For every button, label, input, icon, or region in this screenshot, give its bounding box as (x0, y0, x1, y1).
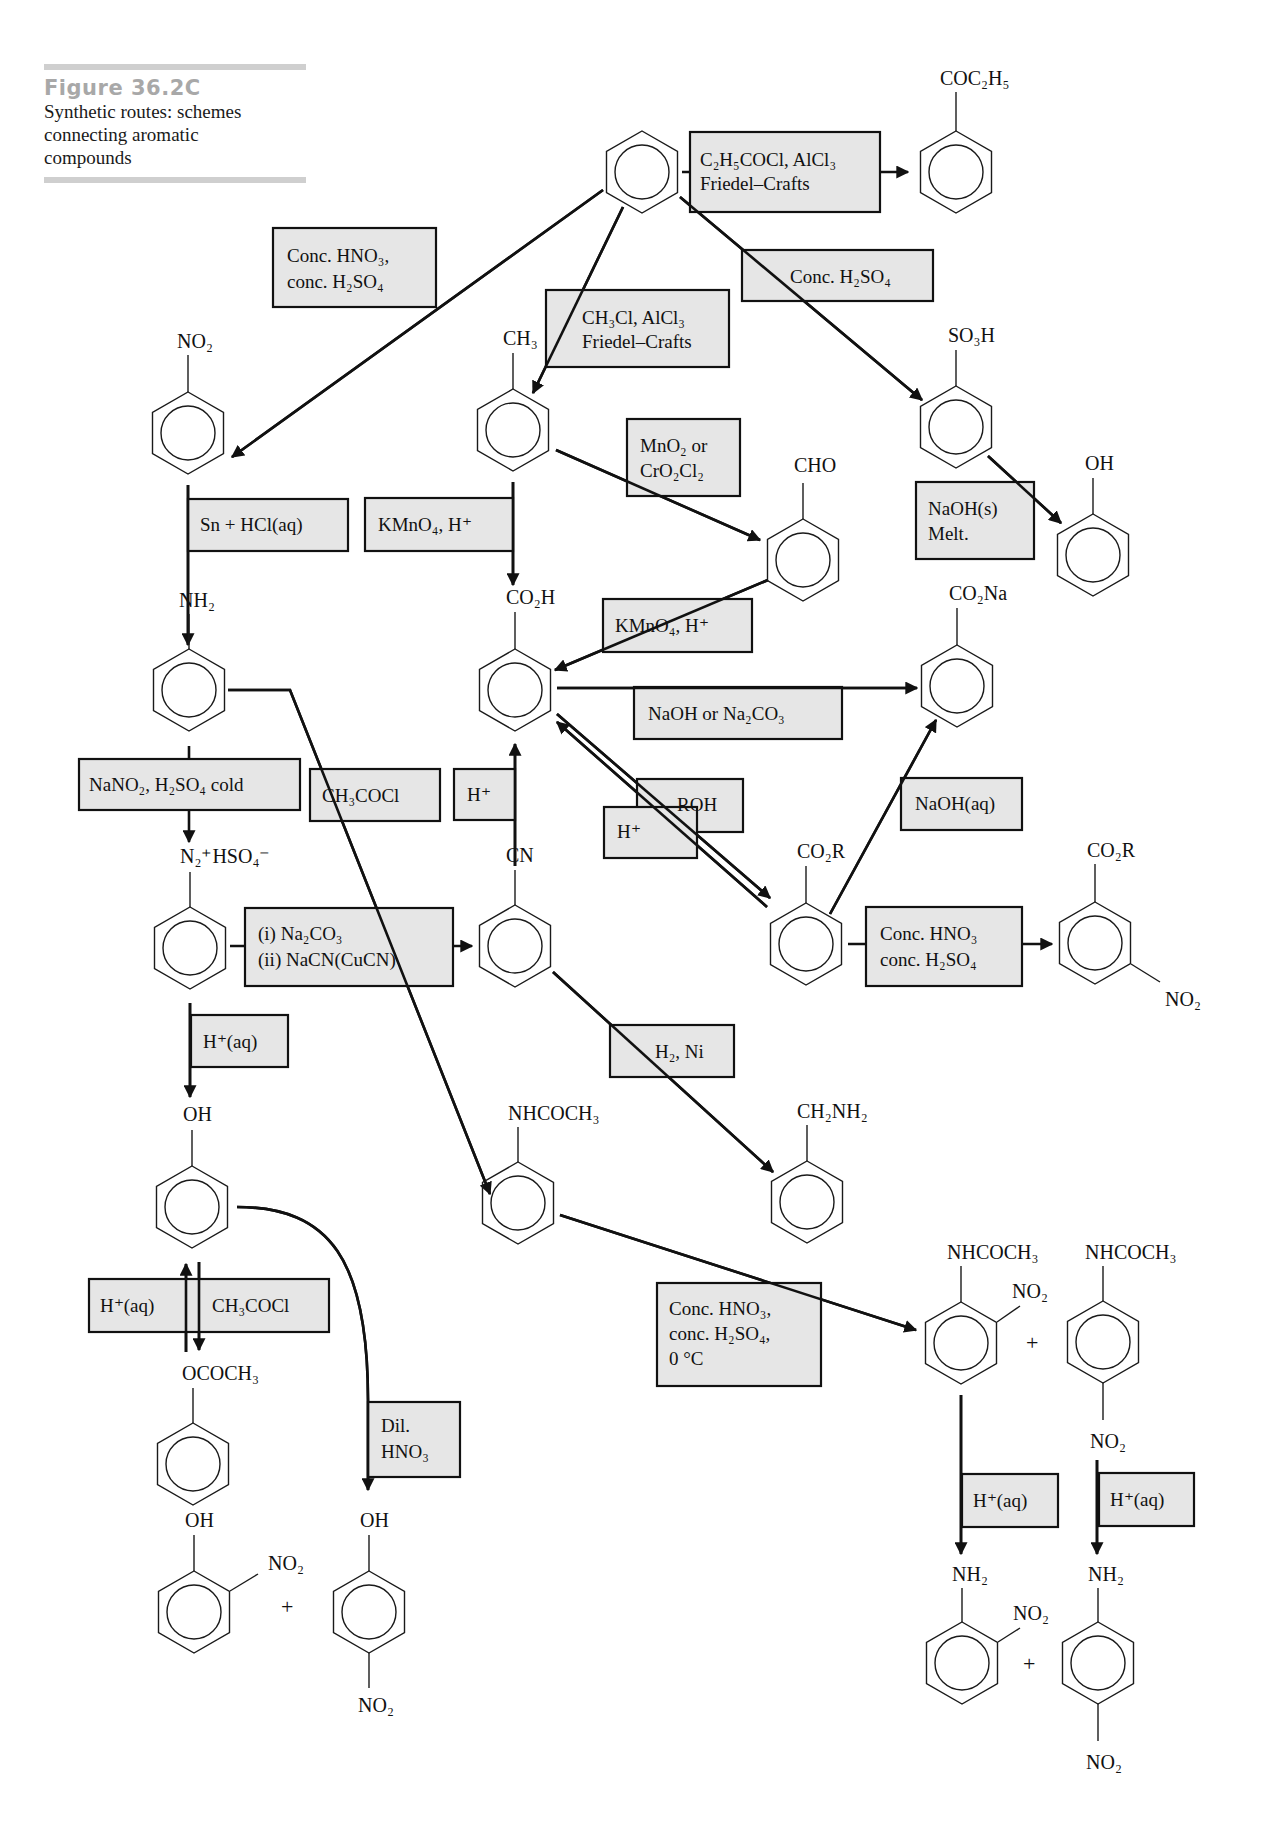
compound-phenyl-ethanoate: OCOCH₃ (158, 1362, 259, 1505)
reaction-arrows (186, 172, 1097, 1554)
reagent-friedel-crafts-alkylation: CH₃Cl, AlCl₃ Friedel–Crafts (546, 290, 729, 367)
compound-o-nitroaniline: NH₂ NO₂ (927, 1563, 1049, 1704)
svg-text:H₂, Ni: H₂, Ni (655, 1041, 704, 1062)
reagent-neutralisation: NaOH or Na₂CO₃ (634, 687, 842, 739)
svg-text:SO₃H: SO₃H (948, 324, 995, 346)
plus-sign: + (1026, 1330, 1038, 1355)
svg-text:C₂H₅COCl, AlCl₃: C₂H₅COCl, AlCl₃ (700, 149, 836, 170)
svg-text:conc. H₂SO₄: conc. H₂SO₄ (880, 949, 977, 970)
svg-text:Conc. HNO₃: Conc. HNO₃ (880, 923, 977, 944)
svg-text:NaOH or Na₂CO₃: NaOH or Na₂CO₃ (648, 703, 785, 724)
benzene-ring-icon (478, 389, 549, 471)
synthesis-scheme: C₂H₅COCl, AlCl₃ Friedel–Crafts Conc. HNO… (0, 0, 1280, 1823)
svg-text:CO₂H: CO₂H (506, 586, 555, 608)
svg-text:NO₂: NO₂ (268, 1552, 304, 1574)
reagent-friedel-crafts-acylation: C₂H₅COCl, AlCl₃ Friedel–Crafts (690, 132, 880, 212)
svg-text:Conc. H₂SO₄: Conc. H₂SO₄ (790, 266, 891, 287)
svg-text:NO₂: NO₂ (1012, 1280, 1048, 1302)
benzene-ring-icon (607, 131, 678, 213)
svg-text:NHCOCH₃: NHCOCH₃ (1085, 1241, 1176, 1263)
svg-text:Melt.: Melt. (928, 523, 969, 544)
reagent-alkali-fusion: NaOH(s) Melt. (916, 482, 1034, 559)
compound-p-nitroaniline: NH₂ NO₂ (1063, 1563, 1134, 1773)
svg-text:NH₂: NH₂ (952, 1563, 988, 1585)
compound-propiophenone: COC₂H₅ (921, 67, 1010, 213)
compound-o-nitroacetanilide: NHCOCH₃ NO₂ (926, 1241, 1048, 1384)
reagent-aldehyde-oxidation: KMnO₄, H⁺ (603, 599, 752, 652)
svg-text:NHCOCH₃: NHCOCH₃ (508, 1102, 599, 1124)
svg-text:CrO₂Cl₂: CrO₂Cl₂ (640, 460, 704, 481)
svg-text:NaOH(s): NaOH(s) (928, 498, 998, 520)
svg-text:NH₂: NH₂ (179, 589, 215, 611)
svg-text:(i) Na₂CO₃: (i) Na₂CO₃ (258, 923, 342, 945)
svg-text:Sn + HCl(aq): Sn + HCl(aq) (200, 514, 303, 536)
benzene-ring-icon (483, 1162, 554, 1244)
compound-benzene (607, 131, 678, 213)
compound-p-nitroacetanilide: NHCOCH₃ NO₂ (1068, 1241, 1177, 1452)
svg-text:OH: OH (1085, 452, 1114, 474)
compound-phenylamine: NH₂ (154, 589, 225, 731)
reagent-phenol-acylation-pair: H⁺(aq) CH₃COCl (89, 1279, 329, 1332)
svg-text:OH: OH (360, 1509, 389, 1531)
arrow-overlays (186, 190, 1097, 1554)
benzene-ring-icon (768, 519, 839, 601)
compound-nitrobenzene: NO₂ (153, 330, 224, 474)
svg-text:NaNO₂, H₂SO₄ cold: NaNO₂, H₂SO₄ cold (89, 774, 244, 795)
reagent-acylation-amine: CH₃COCl (310, 769, 440, 821)
svg-text:N₂⁺HSO₄⁻: N₂⁺HSO₄⁻ (180, 845, 270, 867)
svg-text:CO₂R: CO₂R (1087, 839, 1136, 861)
reagent-diazo-hydrolysis: H⁺(aq) (191, 1015, 288, 1067)
benzene-ring-icon (921, 131, 992, 213)
svg-text:0 °C: 0 °C (669, 1348, 704, 1369)
svg-text:H⁺(aq): H⁺(aq) (203, 1031, 257, 1053)
svg-text:CO₂R: CO₂R (797, 840, 846, 862)
reagent-nitrile-hydrolysis: H⁺ (454, 769, 515, 820)
svg-text:CH₂NH₂: CH₂NH₂ (797, 1100, 868, 1122)
svg-text:H⁺(aq): H⁺(aq) (100, 1295, 154, 1317)
reagent-oxidation-to-aldehyde: MnO₂ or CrO₂Cl₂ (627, 419, 740, 496)
benzene-ring-icon (157, 1166, 228, 1248)
compound-toluene: CH₃ (478, 327, 549, 471)
benzene-ring-icon (927, 1622, 998, 1704)
compound-phenol: OH (157, 1103, 228, 1248)
benzene-ring-icon (921, 386, 992, 468)
reagent-diazotisation: NaNO₂, H₂SO₄ cold (79, 759, 300, 810)
reagent-ester-nitration: Conc. HNO₃ conc. H₂SO₄ (866, 907, 1022, 986)
svg-text:NO₂: NO₂ (177, 330, 213, 352)
svg-text:H⁺: H⁺ (617, 821, 641, 842)
benzene-ring-icon (772, 1161, 843, 1243)
benzene-ring-icon (922, 645, 993, 727)
svg-text:NH₂: NH₂ (1088, 1563, 1124, 1585)
plus-sign: + (281, 1594, 293, 1619)
compound-benzylamine: CH₂NH₂ (772, 1100, 868, 1243)
reagent-acetanilide-nitration: Conc. HNO₃, conc. H₂SO₄, 0 °C (657, 1283, 821, 1386)
svg-text:Conc. HNO₃,: Conc. HNO₃, (669, 1298, 771, 1319)
reagent-phenol-nitration: Dil. HNO₃ (368, 1402, 460, 1477)
benzene-ring-icon (1068, 1301, 1139, 1383)
benzene-ring-icon (153, 392, 224, 474)
svg-text:NO₂: NO₂ (358, 1694, 394, 1716)
benzene-ring-icon (771, 903, 842, 985)
svg-text:NO₂: NO₂ (1165, 988, 1201, 1010)
svg-text:COC₂H₅: COC₂H₅ (940, 67, 1010, 89)
svg-text:ROH: ROH (677, 794, 717, 815)
svg-text:CH₃: CH₃ (503, 327, 538, 349)
svg-text:OH: OH (183, 1103, 212, 1125)
reagent-amide-hydrolysis-para: H⁺(aq) (1099, 1473, 1194, 1526)
benzene-ring-icon (926, 1302, 997, 1384)
reagent-toluene-oxidation: KMnO₄, H⁺ (365, 498, 513, 551)
svg-text:CN: CN (506, 844, 534, 866)
svg-text:NaOH(aq): NaOH(aq) (915, 793, 995, 815)
svg-text:NO₂: NO₂ (1090, 1430, 1126, 1452)
svg-text:NHCOCH₃: NHCOCH₃ (947, 1241, 1038, 1263)
benzene-ring-icon (1058, 514, 1129, 596)
compound-p-nitrophenol: OH NO₂ (334, 1509, 405, 1716)
compound-ester: CO₂R (771, 840, 846, 985)
benzene-ring-icon (1060, 902, 1131, 984)
svg-text:H⁺(aq): H⁺(aq) (973, 1490, 1027, 1512)
svg-text:OH: OH (185, 1509, 214, 1531)
compound-benzaldehyde: CHO (768, 454, 839, 601)
compound-benzonitrile: CN (480, 844, 551, 987)
benzene-ring-icon (154, 649, 225, 731)
svg-text:H⁺: H⁺ (467, 784, 491, 805)
